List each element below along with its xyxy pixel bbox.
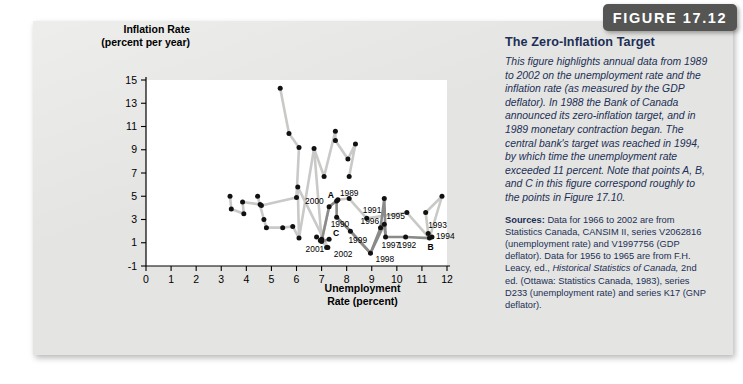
svg-text:3: 3 bbox=[131, 213, 137, 225]
data-point bbox=[255, 194, 260, 199]
data-point bbox=[264, 225, 269, 230]
data-point bbox=[347, 174, 352, 179]
data-point bbox=[382, 196, 387, 201]
caption-title: The Zero-Inflation Target bbox=[505, 35, 710, 49]
point-label: 1991 bbox=[363, 205, 382, 215]
figure-number-label: FIGURE 17.12 bbox=[613, 10, 727, 26]
point-label: 1996 bbox=[361, 216, 380, 226]
chart-area: Inflation Rate (percent per year) -11357… bbox=[0, 0, 500, 334]
x-axis-title-line2: Rate (percent) bbox=[270, 295, 455, 308]
data-point bbox=[327, 204, 332, 209]
point-label: 1999 bbox=[348, 235, 367, 245]
data-point bbox=[314, 234, 319, 239]
svg-text:13: 13 bbox=[125, 97, 137, 109]
x-axis-title-line1: Unemployment bbox=[270, 282, 455, 295]
point-label: 2002 bbox=[334, 249, 353, 259]
svg-text:5: 5 bbox=[131, 190, 137, 202]
point-label: 1989 bbox=[340, 188, 359, 198]
caption-column: The Zero-Inflation Target This figure hi… bbox=[505, 35, 710, 311]
data-point bbox=[327, 237, 332, 242]
svg-text:1: 1 bbox=[131, 236, 137, 248]
data-point bbox=[295, 184, 300, 189]
data-point bbox=[382, 222, 387, 227]
data-point bbox=[297, 145, 302, 150]
point-label: 1995 bbox=[386, 211, 405, 221]
data-point bbox=[241, 211, 246, 216]
data-point bbox=[280, 225, 285, 230]
sources-label: Sources: bbox=[505, 215, 545, 225]
point-label: 1993 bbox=[428, 220, 447, 230]
point-label: 1992 bbox=[398, 240, 417, 250]
data-point bbox=[378, 225, 383, 230]
data-point bbox=[429, 234, 434, 239]
point-label: 1998 bbox=[375, 254, 394, 264]
data-point bbox=[261, 217, 266, 222]
point-label: B bbox=[427, 242, 433, 252]
data-point bbox=[368, 251, 373, 256]
data-point bbox=[426, 231, 431, 236]
scatter-plot-svg: -1135791113150123456789101112 20012002C2… bbox=[0, 0, 500, 300]
x-axis-title: Unemployment Rate (percent) bbox=[270, 282, 455, 308]
svg-text:0: 0 bbox=[143, 273, 149, 285]
data-point bbox=[290, 224, 295, 229]
svg-text:2: 2 bbox=[193, 273, 199, 285]
svg-text:3: 3 bbox=[218, 273, 224, 285]
data-point bbox=[335, 197, 340, 202]
data-point bbox=[228, 194, 233, 199]
point-label: 1994 bbox=[436, 231, 455, 241]
figure-number-badge: FIGURE 17.12 bbox=[603, 4, 737, 31]
svg-text:7: 7 bbox=[131, 167, 137, 179]
point-label: A bbox=[328, 190, 334, 200]
data-point bbox=[325, 245, 330, 250]
point-label: 2000 bbox=[305, 196, 324, 206]
data-point bbox=[439, 194, 444, 199]
data-point bbox=[403, 234, 408, 239]
sources-italic-title: Historical Statistics of Canada, bbox=[552, 263, 678, 273]
data-point bbox=[312, 146, 317, 151]
data-point bbox=[345, 157, 350, 162]
data-point bbox=[353, 141, 358, 146]
svg-text:9: 9 bbox=[131, 143, 137, 155]
data-point bbox=[383, 234, 388, 239]
data-point bbox=[322, 174, 327, 179]
data-point bbox=[259, 203, 264, 208]
point-label: C bbox=[333, 228, 339, 238]
data-point bbox=[240, 200, 245, 205]
svg-text:1: 1 bbox=[168, 273, 174, 285]
data-point bbox=[297, 236, 302, 241]
point-label: 2001 bbox=[306, 244, 325, 254]
data-point bbox=[286, 131, 291, 136]
data-point bbox=[229, 207, 234, 212]
point-label: 1990 bbox=[331, 219, 350, 229]
data-point bbox=[294, 195, 299, 200]
caption-sources: Sources: Data for 1966 to 2002 are from … bbox=[505, 214, 710, 312]
svg-text:-1: -1 bbox=[128, 260, 137, 272]
data-point bbox=[333, 129, 338, 134]
caption-body: This figure highlights annual data from … bbox=[505, 55, 710, 205]
data-point bbox=[333, 138, 338, 143]
svg-text:15: 15 bbox=[125, 74, 137, 86]
data-point bbox=[278, 86, 283, 91]
data-point bbox=[423, 210, 428, 215]
data-point bbox=[348, 229, 353, 234]
svg-text:11: 11 bbox=[126, 120, 137, 132]
svg-text:4: 4 bbox=[243, 273, 249, 285]
figure-root: FIGURE 17.12 Inflation Rate (percent per… bbox=[0, 0, 743, 384]
data-point bbox=[404, 210, 409, 215]
